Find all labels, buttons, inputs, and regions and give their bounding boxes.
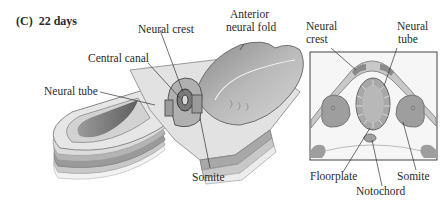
label-neural-tube-xs-2: tube (398, 33, 418, 45)
anterior-neural-fold (195, 42, 303, 125)
label-floorplate: Floorplate (310, 170, 357, 182)
label-somite-3d: Somite (192, 171, 225, 183)
label-anterior-neural-fold-2: neural fold (226, 21, 276, 33)
panel-title: (C) 22 days (16, 14, 77, 29)
panel-label: (C) (16, 14, 33, 28)
cross-section (310, 52, 437, 160)
label-notochord: Notochord (356, 185, 405, 197)
label-neural-crest-3d: Neural crest (138, 23, 194, 35)
label-central-canal: Central canal (88, 52, 149, 64)
label-neural-crest-xs-2: crest (306, 33, 328, 45)
panel-age: 22 days (39, 14, 77, 28)
label-anterior-neural-fold-1: Anterior (230, 8, 269, 20)
label-neural-crest-xs-1: Neural (306, 20, 337, 32)
label-neural-tube-xs-1: Neural (397, 20, 428, 32)
label-somite-xs: Somite (397, 170, 430, 182)
label-neural-tube-3d: Neural tube (44, 85, 98, 97)
